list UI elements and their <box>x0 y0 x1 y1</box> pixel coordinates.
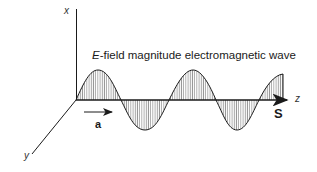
z-axis-label: z <box>295 93 300 104</box>
diagram-canvas <box>0 0 317 172</box>
em-wave-diagram: x y z E-field magnitude electromagnetic … <box>0 0 317 172</box>
poynting-vector-label: S <box>274 106 283 121</box>
y-axis-line <box>32 100 76 154</box>
unit-vector-label: a <box>95 118 101 130</box>
x-axis-label: x <box>64 5 69 16</box>
title-text: -field magnitude electromagnetic wave <box>100 49 296 61</box>
diagram-title: E-field magnitude electromagnetic wave <box>92 49 296 61</box>
y-axis-label: y <box>24 150 29 161</box>
title-e-symbol: E <box>92 49 100 61</box>
